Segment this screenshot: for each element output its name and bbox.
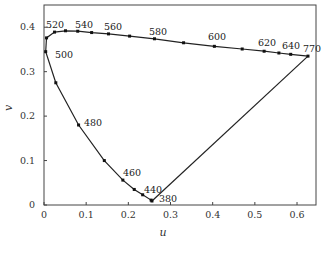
data-point [44,50,47,53]
data-point [289,53,292,56]
wavelength-label: 620 [258,37,276,48]
wavelength-label: 770 [303,43,321,54]
data-point [277,52,280,55]
data-point [128,35,131,38]
x-axis-label: u [159,226,166,239]
data-point [103,159,106,162]
x-tick-label: 0.3 [163,209,178,220]
x-tick-label: 0.4 [205,209,220,220]
y-tick-label: 0.3 [20,66,35,77]
x-tick-label: 0.5 [247,209,262,220]
data-point [306,55,309,58]
y-tick-label: 0.2 [20,110,35,121]
wavelength-labels: 520540560580600620640770500480460440380 [46,19,321,204]
y-tick-label: 0.4 [20,21,35,32]
y-axis-ticks: 00.10.20.30.4 [20,21,47,210]
data-point [53,31,56,34]
data-point [150,199,153,202]
wavelength-label: 480 [84,117,102,128]
spectral-locus-curve [46,31,308,201]
chromaticity-diagram: 00.10.20.30.40.50.6 00.10.20.30.4 520540… [0,0,325,255]
y-tick-label: 0 [29,199,35,210]
purple-line [152,56,308,201]
x-tick-label: 0.6 [289,209,304,220]
data-point-markers [44,29,309,202]
wavelength-label: 460 [123,167,141,178]
data-point [45,36,48,39]
data-point [153,37,156,40]
data-point [77,124,80,127]
data-point [263,50,266,53]
wavelength-label: 560 [104,21,122,32]
x-tick-label: 0.2 [121,209,136,220]
data-point [54,81,57,84]
wavelength-label: 520 [46,19,64,30]
data-point [64,29,67,32]
data-point [76,30,79,33]
data-point [241,48,244,51]
wavelength-label: 600 [208,31,226,42]
data-point [121,179,124,182]
data-point [182,41,185,44]
wavelength-label: 640 [282,40,300,51]
data-point [213,45,216,48]
x-tick-label: 0.1 [79,209,94,220]
wavelength-label: 540 [75,19,93,30]
data-point [107,32,110,35]
x-tick-label: 0 [41,209,47,220]
y-axis-label: v [2,104,15,111]
y-tick-label: 0.1 [20,155,35,166]
wavelength-label: 500 [55,49,73,60]
wavelength-label: 580 [149,26,167,37]
data-point [90,31,93,34]
wavelength-label: 380 [159,193,177,204]
data-point [133,188,136,191]
